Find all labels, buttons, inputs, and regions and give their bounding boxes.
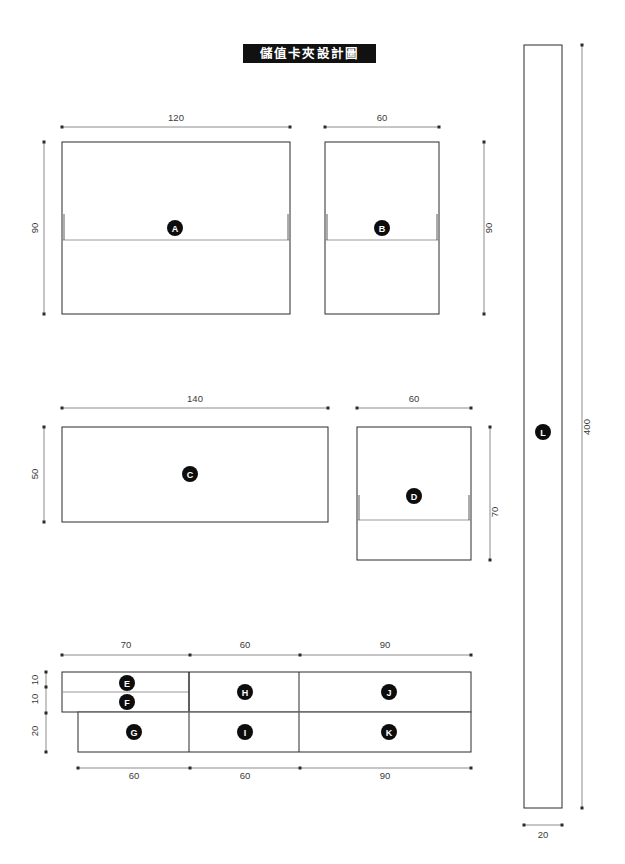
title-block: 儲值卡夾設計圖 [243,44,376,63]
dim-strip-left-1: 10 [29,675,40,686]
dim-c-width: 140 [61,393,330,410]
dim-c-height: 50 [29,426,46,524]
dim-d-width-value: 60 [409,393,420,404]
dim-b-width: 60 [324,112,441,129]
dim-strip-top-2: 60 [240,639,251,650]
dim-l-height-value: 400 [581,419,592,435]
dim-strip-bottom-2: 60 [240,770,251,781]
panel-marker-d-label: D [411,492,418,502]
dim-c-height-value: 50 [29,469,40,480]
dim-b-height: 90 [483,141,495,316]
dim-strip-bottom: 60 60 90 [77,767,473,782]
panel-marker-j-label: J [386,688,391,698]
dim-a-width: 120 [61,112,292,129]
panel-marker-k-label: K [386,728,393,738]
dim-l-width-value: 20 [538,829,549,840]
dim-strip-top-1: 70 [121,639,132,650]
strip-assembly-group: 70 60 90 10 10 20 E F [29,639,473,781]
dim-l-width: 20 [523,824,564,841]
dim-strip-left: 10 10 20 [29,671,48,754]
dim-a-width-value: 120 [168,112,184,123]
panel-marker-a-label: A [172,224,179,234]
panel-marker-l-label: L [540,428,546,438]
dim-l-height: 400 [581,44,593,810]
dim-strip-top-3: 90 [380,639,391,650]
dim-b-width-value: 60 [377,112,388,123]
panel-marker-g-label: G [130,728,137,738]
panel-marker-f-label: F [124,698,130,708]
dim-strip-bottom-3: 90 [380,770,391,781]
dim-b-height-value: 90 [483,223,494,234]
panel-c-group: 140 50 C [29,393,330,524]
dim-d-height-value: 70 [489,507,500,518]
panel-marker-h-label: H [242,688,249,698]
dim-a-height: 90 [29,141,46,316]
dim-strip-bottom-1: 60 [129,770,140,781]
panel-l-group: 400 20 L [523,44,593,841]
dim-strip-top: 70 60 90 [61,639,473,657]
panel-marker-b-label: B [379,224,386,234]
panel-marker-i-label: I [244,728,247,738]
sheet-title: 儲值卡夾設計圖 [259,46,359,61]
panel-marker-e-label: E [124,679,130,689]
panel-d-group: 60 70 D [356,393,501,562]
dim-a-height-value: 90 [29,223,40,234]
dim-c-width-value: 140 [187,393,203,404]
panel-a-group: 120 90 A [29,112,292,316]
dim-strip-left-3: 20 [29,726,40,737]
drawing-sheet: 儲值卡夾設計圖 120 90 A [0,0,625,864]
dim-d-width: 60 [356,393,473,410]
dim-d-height: 70 [489,426,501,562]
panel-b-group: 60 90 B [324,112,495,316]
panel-marker-c-label: C [187,470,194,480]
dim-strip-left-2: 10 [29,694,40,705]
